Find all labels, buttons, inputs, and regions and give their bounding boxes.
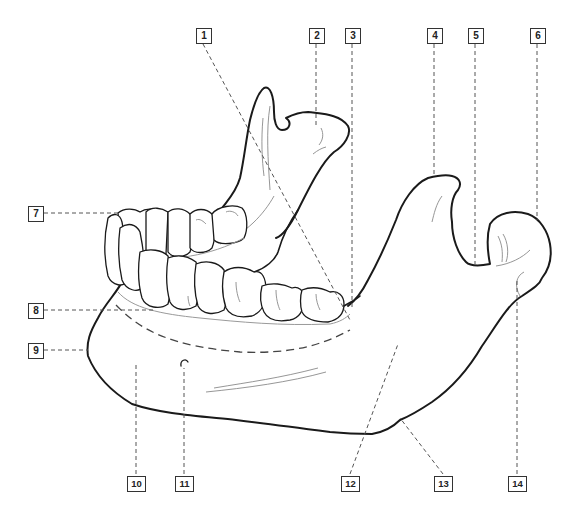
rear-ramus — [220, 88, 349, 274]
label-9: 9 — [28, 343, 44, 359]
label-1: 1 — [196, 28, 212, 44]
label-11: 11 — [175, 476, 194, 492]
label-13: 13 — [434, 476, 453, 492]
mandible-diagram: 1 2 3 4 5 6 7 8 9 10 11 12 13 14 — [0, 0, 588, 518]
label-14: 14 — [508, 476, 527, 492]
label-10: 10 — [127, 476, 146, 492]
mandible-illustration — [0, 0, 588, 518]
label-8: 8 — [28, 303, 44, 319]
label-5: 5 — [468, 28, 484, 44]
label-3: 3 — [345, 28, 361, 44]
label-12: 12 — [341, 476, 360, 492]
label-4: 4 — [427, 28, 443, 44]
label-2: 2 — [309, 28, 325, 44]
label-7: 7 — [28, 206, 44, 222]
label-6: 6 — [530, 28, 546, 44]
